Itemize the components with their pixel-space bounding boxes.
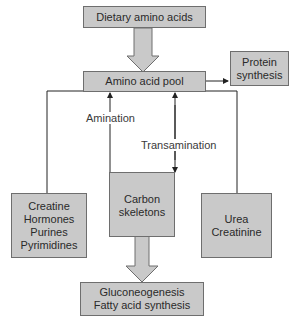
node-carbon-skeletons: Carbon skeletons	[109, 172, 175, 237]
big-arrow-carbon-to-gluco	[126, 236, 158, 282]
edge-label-transamination: Transamination	[141, 139, 216, 151]
node-creatine-hormones: Creatine Hormones Purines Pyrimidines	[11, 193, 87, 258]
connector-layer	[0, 0, 292, 324]
node-label: skeletons	[119, 206, 165, 219]
node-label: Urea	[225, 213, 249, 226]
node-gluconeogenesis: Gluconeogenesis Fatty acid synthesis	[80, 282, 204, 316]
node-urea-creatinine: Urea Creatinine	[201, 193, 272, 258]
node-label: Fatty acid synthesis	[94, 299, 191, 312]
node-label: Creatine	[28, 200, 70, 213]
node-label: Dietary amino acids	[96, 11, 193, 24]
node-protein-synthesis: Protein synthesis	[230, 51, 289, 86]
node-label: Creatinine	[211, 226, 261, 239]
node-label: synthesis	[237, 69, 283, 82]
node-label: Carbon	[124, 193, 160, 206]
big-arrow-dietary-to-pool	[127, 28, 159, 72]
node-label: Purines	[30, 226, 67, 239]
node-label: Gluconeogenesis	[99, 286, 184, 299]
node-label: Amino acid pool	[105, 75, 183, 88]
node-label: Hormones	[24, 213, 75, 226]
node-label: Pyrimidines	[21, 239, 78, 252]
node-label: Protein	[242, 56, 277, 69]
node-amino-acid-pool: Amino acid pool	[83, 71, 206, 92]
node-dietary-amino-acids: Dietary amino acids	[83, 6, 206, 28]
edge-label-amination: Amination	[86, 112, 135, 124]
